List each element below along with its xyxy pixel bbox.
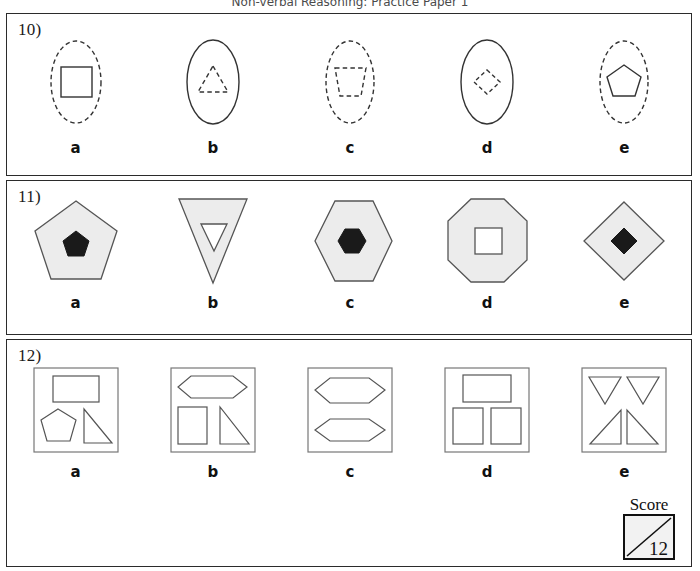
option-12-c[interactable]: c — [287, 366, 413, 481]
figure-grey-diamond-black-diamond — [574, 193, 674, 288]
figure-box-three-rectangles — [443, 366, 531, 454]
option-label: b — [207, 294, 218, 312]
score-value: 12 — [649, 538, 668, 560]
option-label: c — [346, 139, 355, 157]
option-label: a — [71, 294, 81, 312]
figure-solid-ellipse-dashed-triangle — [173, 32, 253, 132]
figure-solid-ellipse-dashed-diamond — [447, 32, 527, 132]
options-row-11: a b c d — [7, 181, 693, 334]
option-label: e — [619, 463, 629, 481]
options-row-12: a b c — [7, 340, 693, 566]
question-panel-10: 10) a b c — [6, 13, 692, 176]
option-label: b — [207, 139, 218, 157]
option-10-b[interactable]: b — [150, 32, 276, 157]
question-panel-11: 11) a b c — [6, 180, 692, 335]
option-12-e[interactable]: e — [561, 366, 687, 481]
option-12-a[interactable]: a — [13, 366, 139, 481]
worksheet-page: Non-verbal Reasoning: Practice Paper 1 1… — [0, 0, 700, 571]
figure-dashed-ellipse-dashed-trapezoid — [310, 32, 390, 132]
option-label: a — [71, 463, 81, 481]
option-10-e[interactable]: e — [561, 32, 687, 157]
option-label: e — [619, 294, 629, 312]
option-11-b[interactable]: b — [150, 193, 276, 312]
figure-box-rectangle-pentagon-triangle — [32, 366, 120, 454]
score-area: Score 12 — [623, 496, 675, 560]
figure-grey-inverted-triangle-white-inverted-triangle — [163, 193, 263, 288]
figure-dashed-ellipse-solid-square — [36, 32, 116, 132]
option-11-e[interactable]: e — [561, 193, 687, 312]
option-label: e — [619, 139, 629, 157]
option-11-a[interactable]: a — [13, 193, 139, 312]
option-label: d — [482, 139, 493, 157]
option-label: d — [482, 463, 493, 481]
figure-box-hexagon-rectangle-triangle — [169, 366, 257, 454]
option-label: a — [71, 139, 81, 157]
option-12-d[interactable]: d — [424, 366, 550, 481]
option-12-b[interactable]: b — [150, 366, 276, 481]
page-header: Non-verbal Reasoning: Practice Paper 1 — [0, 0, 700, 13]
option-label: b — [207, 463, 218, 481]
option-10-d[interactable]: d — [424, 32, 550, 157]
option-11-c[interactable]: c — [287, 193, 413, 312]
option-label: d — [482, 294, 493, 312]
figure-grey-pentagon-black-pentagon — [26, 193, 126, 288]
figure-grey-hexagon-black-hexagon — [300, 193, 400, 288]
option-10-a[interactable]: a — [13, 32, 139, 157]
figure-box-two-hexagons — [306, 366, 394, 454]
figure-dashed-ellipse-solid-pentagon — [584, 32, 664, 132]
figure-box-four-triangles — [580, 366, 668, 454]
option-label: c — [346, 294, 355, 312]
question-panel-12: 12) a b — [6, 339, 692, 567]
option-label: c — [346, 463, 355, 481]
options-row-10: a b c d — [7, 14, 693, 175]
option-11-d[interactable]: d — [424, 193, 550, 312]
option-10-c[interactable]: c — [287, 32, 413, 157]
score-label: Score — [630, 496, 669, 514]
header-title: Non-verbal Reasoning: Practice Paper 1 — [0, 0, 700, 9]
score-box[interactable]: 12 — [623, 514, 675, 560]
figure-grey-octagon-white-square — [437, 193, 537, 288]
